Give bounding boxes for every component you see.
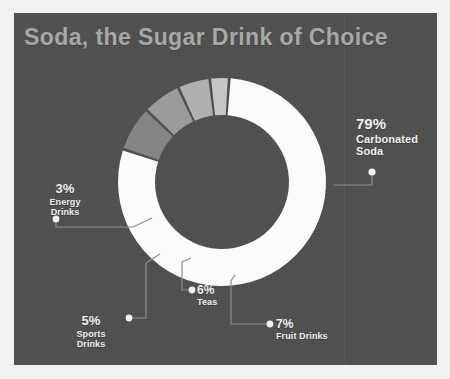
donut-slice-group <box>118 78 326 286</box>
donut-slice-energy-drinks[interactable] <box>211 78 228 115</box>
leader-dot-carbonated <box>368 168 375 175</box>
callout-teas-label-line1: Teas <box>197 297 217 307</box>
callout-carbonated-percent: 79% <box>356 116 418 133</box>
callout-carbonated-label-line1: Carbonated <box>356 133 418 145</box>
callout-fruit-percent: 7% <box>276 318 328 331</box>
callout-sports-label-line1: Sports <box>58 329 124 339</box>
callout-fruit-drinks: 7% Fruit Drinks <box>276 318 328 342</box>
callout-teas: 6% Teas <box>197 284 217 308</box>
callout-sports-label-line2: Drinks <box>58 339 124 349</box>
callout-sports-percent: 5% <box>58 314 124 329</box>
callout-energy-percent: 3% <box>30 182 100 197</box>
leader-dot-sports <box>126 315 133 322</box>
infographic-root: Soda, the Sugar Drink of Choice 79% Carb… <box>0 0 450 379</box>
leader-dot-teas <box>189 287 196 294</box>
callout-sports-drinks: 5% Sports Drinks <box>58 314 124 349</box>
callout-energy-label-line1: Energy <box>30 197 100 207</box>
leader-line-carbonated <box>334 174 372 185</box>
leader-line-sports <box>131 254 160 318</box>
callout-carbonated-soda: 79% Carbonated Soda <box>356 116 418 157</box>
callout-energy-drinks: 3% Energy Drinks <box>30 182 100 217</box>
callout-energy-label-line2: Drinks <box>30 207 100 217</box>
leader-dot-fruit <box>267 321 274 328</box>
callout-fruit-label-line1: Fruit Drinks <box>276 331 328 341</box>
callout-teas-percent: 6% <box>197 284 217 297</box>
callout-carbonated-label-line2: Soda <box>356 145 418 157</box>
